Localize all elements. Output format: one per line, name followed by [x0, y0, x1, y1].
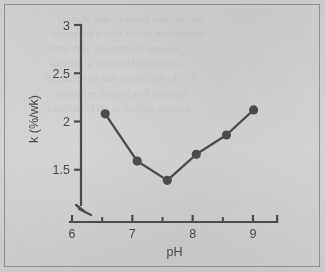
y-axis-title: k (%/wk) [27, 95, 41, 143]
x-axis-title: pH [167, 245, 183, 259]
axes-lines [70, 25, 277, 222]
svg-text:1.5: 1.5 [53, 163, 70, 177]
svg-text:2.5: 2.5 [53, 67, 70, 81]
axis-titles: pHk (%/wk) [27, 95, 183, 259]
y-axis-tick-labels: 1.522.53 [53, 19, 70, 178]
ph-rate-chart: 1.522.53 6789 pHk (%/wk) [0, 0, 325, 272]
svg-text:2: 2 [63, 115, 70, 129]
svg-text:7: 7 [129, 227, 136, 241]
svg-text:8: 8 [189, 227, 196, 241]
svg-text:9: 9 [250, 227, 257, 241]
data-series [101, 105, 259, 185]
svg-text:6: 6 [69, 227, 76, 241]
x-axis-tick-labels: 6789 [69, 227, 257, 241]
svg-text:3: 3 [63, 19, 70, 33]
figure-panel: scanned page showing reaction rate versu… [0, 0, 325, 272]
axis-break-icon [76, 205, 91, 215]
